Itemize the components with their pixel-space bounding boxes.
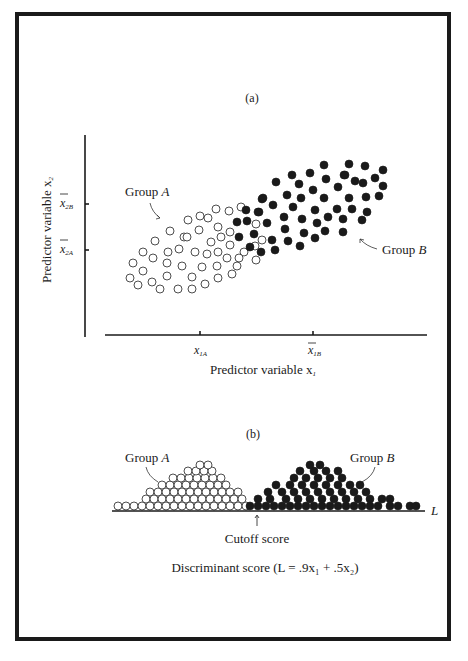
open-circle-point <box>235 254 243 262</box>
filled-circle-point <box>339 215 347 223</box>
filled-circle-point <box>394 502 402 510</box>
filled-circle-point <box>296 242 304 250</box>
cutoff-label: Cutoff score <box>225 531 290 546</box>
open-circle-point <box>184 216 192 224</box>
filled-circle-point <box>310 502 318 510</box>
filled-circle-point <box>243 217 251 225</box>
filled-circle-point <box>320 194 328 202</box>
filled-circle-point <box>350 488 358 496</box>
group-a-distribution <box>114 461 250 510</box>
filled-circle-point <box>318 495 326 503</box>
x-tick-label-1b: x1B <box>307 343 322 358</box>
filled-circle-point <box>272 481 280 489</box>
open-circle-point <box>175 245 183 253</box>
open-circle-point <box>252 220 260 228</box>
filled-circle-point <box>412 502 420 510</box>
filled-circle-point <box>339 228 347 236</box>
open-circle-point <box>225 207 233 215</box>
open-circle-point <box>114 502 122 510</box>
filled-circle-point <box>346 481 354 489</box>
open-circle-point <box>169 474 177 482</box>
filled-circle-point <box>375 192 383 200</box>
filled-circle-point <box>278 502 286 510</box>
filled-circle-point <box>262 502 270 510</box>
open-circle-point <box>178 262 186 270</box>
open-circle-point <box>164 248 172 256</box>
filled-circle-point <box>342 495 350 503</box>
group-b-arrow-icon <box>360 239 377 249</box>
filled-circle-point <box>246 502 254 510</box>
filled-circle-point <box>363 208 371 216</box>
filled-circle-point <box>268 236 276 244</box>
filled-circle-point <box>316 461 324 469</box>
filled-circle-point <box>246 243 254 251</box>
open-circle-point <box>188 285 196 293</box>
open-circle-point <box>213 262 221 270</box>
filled-circle-point <box>310 481 318 489</box>
filled-circle-point <box>286 481 294 489</box>
filled-circle-point <box>326 488 334 496</box>
filled-circle-point <box>283 191 291 199</box>
open-circle-point <box>139 267 147 275</box>
filled-circle-point <box>345 194 353 202</box>
group-a-label-b: Group A <box>125 450 169 465</box>
filled-circle-point <box>235 233 243 241</box>
filled-circle-point <box>284 237 292 245</box>
filled-circle-point <box>362 193 370 201</box>
filled-circle-point <box>341 171 349 179</box>
filled-circle-point <box>361 162 369 170</box>
open-circle-point <box>226 241 234 249</box>
discriminant-caption: Discriminant score (L = .9x₁ + .5x₂) <box>171 560 358 575</box>
open-circle-point <box>158 481 166 489</box>
filled-circle-point <box>313 219 321 227</box>
open-circle-point <box>217 233 225 241</box>
filled-circle-point <box>338 474 346 482</box>
open-circle-point <box>151 237 159 245</box>
open-circle-point <box>258 236 266 244</box>
filled-circle-point <box>359 179 367 187</box>
filled-circle-point <box>322 175 330 183</box>
open-circle-point <box>217 474 225 482</box>
filled-circle-point <box>269 201 277 209</box>
filled-circle-point <box>297 194 305 202</box>
filled-circle-point <box>371 174 379 182</box>
y-tick-label-2a: x2A <box>59 240 74 257</box>
filled-circle-point <box>309 186 317 194</box>
filled-circle-point <box>333 205 341 213</box>
open-circle-point <box>163 259 171 267</box>
open-circle-point <box>174 285 182 293</box>
filled-circle-point <box>306 461 314 469</box>
filled-circle-point <box>386 495 394 503</box>
filled-circle-point <box>302 488 310 496</box>
open-circle-point <box>207 238 215 246</box>
filled-circle-point <box>321 227 329 235</box>
filled-circle-point <box>311 206 319 214</box>
filled-circle-point <box>270 502 278 510</box>
filled-circle-point <box>290 488 298 496</box>
open-circle-point <box>163 272 171 280</box>
open-circle-point <box>196 461 204 469</box>
filled-circle-point <box>296 467 304 475</box>
filled-circle-point <box>334 481 342 489</box>
filled-circle-point <box>300 229 308 237</box>
open-circle-point <box>122 502 130 510</box>
open-circle-point <box>223 254 231 262</box>
y-tick-label-2b: x2B <box>59 194 74 211</box>
filled-circle-point <box>302 474 310 482</box>
filled-circle-point <box>250 230 258 238</box>
filled-circle-point <box>322 467 330 475</box>
group-b-arrow-icon <box>362 467 375 482</box>
open-circle-point <box>184 467 192 475</box>
filled-circle-point <box>298 481 306 489</box>
filled-circle-point <box>257 248 265 256</box>
filled-circle-point <box>366 495 374 503</box>
filled-circle-point <box>345 160 353 168</box>
filled-circle-point <box>286 502 294 510</box>
filled-circle-point <box>379 166 387 174</box>
filled-circle-point <box>254 208 262 216</box>
svg-text:x2A: x2A <box>59 242 74 257</box>
svg-text:x1A: x1A <box>193 343 208 358</box>
filled-circle-point <box>263 219 271 227</box>
filled-circle-point <box>298 215 306 223</box>
y-axis-title: Predictor variable x2 <box>39 176 55 283</box>
